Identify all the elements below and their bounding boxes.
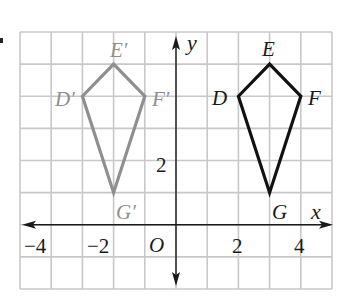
vertex-label-D-prime: D′ [54, 87, 75, 111]
y-axis-label: y [185, 30, 197, 55]
tick-label-x-neg2: −2 [87, 234, 109, 258]
coordinate-plane-diagram: y x O −4 −2 2 4 2 D E F G D′ E′ F′ G′ [0, 0, 344, 296]
vertex-label-G-prime: G′ [116, 200, 136, 224]
vertex-label-D: D [211, 86, 227, 110]
crop-artifact [0, 38, 3, 43]
vertex-label-F: F [307, 86, 321, 110]
vertex-label-G: G [272, 200, 287, 224]
tick-label-x-2: 2 [232, 234, 243, 258]
x-axis-label: x [310, 199, 321, 224]
origin-label: O [149, 233, 164, 257]
tick-label-y-2: 2 [156, 153, 167, 177]
vertex-label-E: E [261, 37, 275, 61]
vertex-label-E-prime: E′ [109, 38, 128, 62]
tick-label-x-4: 4 [294, 234, 305, 258]
tick-label-x-neg4: −4 [24, 234, 47, 258]
diagram-canvas: y x O −4 −2 2 4 2 D E F G D′ E′ F′ G′ [0, 0, 344, 296]
vertex-label-F-prime: F′ [151, 87, 170, 111]
